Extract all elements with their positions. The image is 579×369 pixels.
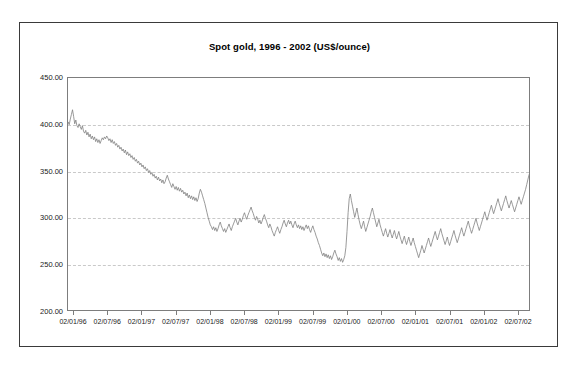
y-axis-labels: 450.00400.00350.00300.00250.00200.00 [4, 77, 63, 311]
x-tick-label: 02/01/99 [265, 318, 292, 325]
x-tick-mark [141, 311, 142, 315]
y-tick-label: 300.00 [5, 213, 63, 222]
x-tick-label: 02/07/01 [436, 318, 463, 325]
x-tick-mark [73, 311, 74, 315]
gold-price-line-series [67, 77, 530, 311]
x-axis-labels: 02/01/9602/07/9602/01/9702/07/9702/01/98… [67, 318, 530, 332]
x-tick-label: 02/01/00 [333, 318, 360, 325]
chart-page: Spot gold, 1996 - 2002 (US$/ounce) 450.0… [0, 0, 579, 369]
y-tick-label: 250.00 [5, 260, 63, 269]
y-tick-label: 400.00 [5, 119, 63, 128]
y-tick-label: 200.00 [5, 307, 63, 316]
x-tick-label: 02/07/96 [94, 318, 121, 325]
y-tick-label: 450.00 [5, 73, 63, 82]
x-tick-label: 02/07/99 [299, 318, 326, 325]
x-tick-mark [278, 311, 279, 315]
x-tick-mark [176, 311, 177, 315]
x-tick-mark [107, 311, 108, 315]
x-tick-label: 02/01/98 [196, 318, 223, 325]
x-tick-label: 02/07/02 [504, 318, 531, 325]
x-tick-label: 02/07/00 [367, 318, 394, 325]
x-tick-mark [518, 311, 519, 315]
x-tick-mark [450, 311, 451, 315]
x-axis-ticks [67, 311, 530, 316]
x-tick-mark [313, 311, 314, 315]
x-tick-mark [347, 311, 348, 315]
x-tick-mark [381, 311, 382, 315]
x-tick-label: 02/01/97 [128, 318, 155, 325]
y-tick-label: 350.00 [5, 166, 63, 175]
x-tick-label: 02/01/02 [470, 318, 497, 325]
x-tick-mark [210, 311, 211, 315]
x-tick-label: 02/01/96 [59, 318, 86, 325]
x-tick-mark [415, 311, 416, 315]
x-tick-label: 02/01/01 [402, 318, 429, 325]
x-tick-mark [484, 311, 485, 315]
x-tick-label: 02/07/98 [231, 318, 258, 325]
chart-title: Spot gold, 1996 - 2002 (US$/ounce) [0, 41, 579, 52]
x-tick-mark [244, 311, 245, 315]
x-tick-label: 02/07/97 [162, 318, 189, 325]
